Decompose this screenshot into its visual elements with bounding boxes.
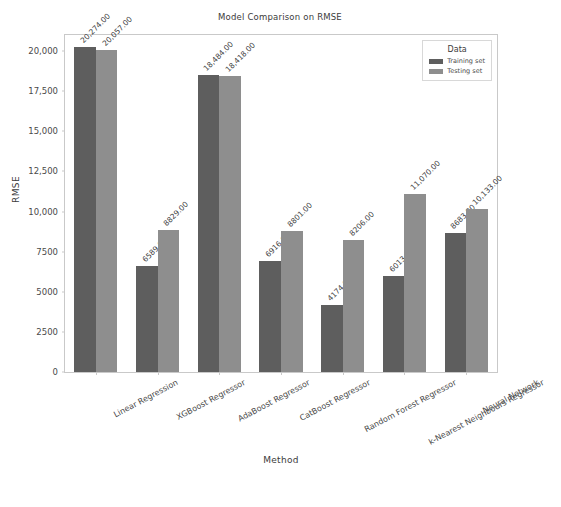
x-axis-tick-mark [219,372,220,375]
bar: 8829.00 [158,230,180,372]
bar-value-label: 8829.00 [162,200,190,228]
y-axis-tick-label: 17,500 [28,86,58,96]
bar: 8683.00 [445,233,467,372]
bar-value-label: 11,070.00 [409,159,442,192]
x-axis-tick-label: Linear Regression [112,378,179,419]
y-axis-tick-mark [62,331,65,332]
bar: 8206.00 [343,240,365,372]
y-axis-tick-mark [62,251,65,252]
legend-item[interactable]: Testing set [429,67,485,75]
chart-legend: Data Training setTesting set [422,40,492,81]
y-axis-tick-mark [62,51,65,52]
y-axis-tick-label: 10,000 [28,207,58,217]
y-axis-tick-mark [62,131,65,132]
bar-value-label: 10,133.00 [471,174,504,207]
bar-value-label: 8801.00 [285,200,313,228]
bar: 18,484.00 [198,75,220,372]
y-axis-tick-label: 0 [53,367,58,377]
plot-inner: 025005000750010,00012,50015,00017,50020,… [65,35,497,372]
bar: 18,418.00 [219,76,241,372]
bar: 8801.00 [281,231,303,372]
y-axis-tick-label: 5000 [36,287,58,297]
legend-item-label: Testing set [447,67,482,75]
y-axis-tick-mark [62,91,65,92]
y-axis-tick-mark [62,291,65,292]
bar: 4174.00 [321,305,343,372]
y-axis-tick-mark [62,171,65,172]
y-axis-tick-label: 2500 [36,327,58,337]
legend-title: Data [429,45,485,54]
y-axis-tick-label: 7500 [36,247,58,257]
x-axis-tick-mark [158,372,159,375]
y-axis-tick-label: 15,000 [28,126,58,136]
bar: 6013.00 [383,276,405,372]
y-axis-tick-mark [62,211,65,212]
bar: 20,057.00 [96,50,118,372]
x-axis-tick-label: Neural Network [481,378,540,415]
x-axis-tick-mark [343,372,344,375]
y-axis-label: RMSE [11,176,21,203]
y-axis-tick-label: 20,000 [28,46,58,56]
x-axis-label: Method [64,455,498,465]
bar: 20,274.00 [74,47,96,372]
legend-entries: Training setTesting set [429,57,485,75]
x-axis-tick-label: Random Forest Regressor [363,378,458,434]
legend-swatch-icon [429,59,443,64]
y-axis-tick-label: 12,500 [28,166,58,176]
legend-item-label: Training set [447,57,485,65]
bar: 10,133.00 [466,209,488,372]
x-axis-tick-mark [96,372,97,375]
chart-figure: Model Comparison on RMSE RMSE 0250050007… [0,0,561,507]
plot-area: 025005000750010,00012,50015,00017,50020,… [64,34,498,373]
x-axis-tick-mark [404,372,405,375]
x-axis-tick-mark [281,372,282,375]
bar-value-label: 8206.00 [347,210,375,238]
legend-item[interactable]: Training set [429,57,485,65]
y-axis-tick-mark [62,372,65,373]
x-axis-tick-mark [466,372,467,375]
bar: 11,070.00 [404,194,426,372]
bar: 6589.00 [136,266,158,372]
legend-swatch-icon [429,69,443,74]
bar: 6916.00 [259,261,281,372]
